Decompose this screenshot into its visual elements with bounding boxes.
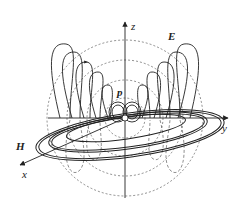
z-axis-label: z	[131, 20, 135, 32]
magnetic-field-lines	[33, 100, 227, 170]
x-axis-label: x	[22, 168, 27, 180]
dipole-diagram	[0, 0, 243, 211]
y-axis-label: y	[222, 122, 227, 134]
dipole-moment-label: p	[117, 86, 123, 98]
electric-field-label: E	[168, 30, 175, 42]
magnetic-field-label: H	[16, 140, 25, 152]
dipole-center	[122, 115, 128, 121]
